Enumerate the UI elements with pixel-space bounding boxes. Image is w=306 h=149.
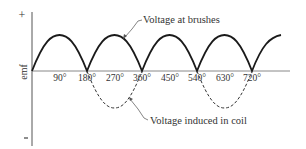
coil-callout-leader: [130, 99, 148, 120]
x-tick-540: 540°: [188, 73, 206, 83]
x-tick-720: 720°: [243, 73, 261, 83]
x-tick-270: 270°: [106, 73, 124, 83]
brushes-callout-leader: [125, 20, 142, 37]
y-axis-label: emf: [18, 64, 29, 80]
brushes-label: Voltage at brushes: [143, 14, 220, 25]
x-tick-labels: 90° 180° 270° 360° 450° 540° 630° 720°: [53, 73, 261, 83]
x-tick-360: 360°: [133, 73, 151, 83]
x-tick-90: 90°: [53, 73, 67, 83]
brushes-callout-arrowhead: [123, 34, 127, 39]
emf-waveform-diagram: + emf 90° 180° 270° 360° 450° 540° 630° …: [0, 0, 306, 149]
x-tick-180: 180°: [78, 73, 96, 83]
x-tick-450: 450°: [161, 73, 179, 83]
y-plus-label: +: [19, 8, 26, 22]
brushes-voltage-curve: [32, 35, 281, 71]
coil-label: Voltage induced in coil: [150, 115, 247, 126]
x-tick-630: 630°: [216, 73, 234, 83]
